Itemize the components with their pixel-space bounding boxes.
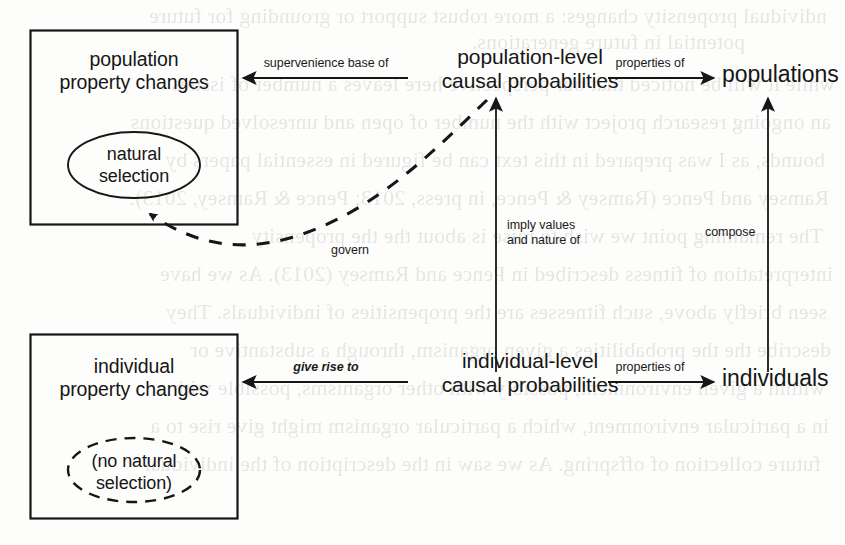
edge-label-govern: govern [331,243,369,258]
node-label-line-1: population-level [415,45,645,69]
box-label-line-2: property changes [34,378,234,401]
edge-label-properties-of-populations: properties of [616,56,685,71]
box-label-line-1: individual [34,355,234,378]
node-population-level-causal-probabilities: population-level causal probabilities [415,45,645,93]
edge-label-line-2: and nature of [507,233,580,248]
ellipse-label-natural-selection: natural selection [59,143,209,187]
node-individuals: individuals [722,366,828,390]
edge-label-give-rise-to: give rise to [293,360,358,375]
box-label-population-property-changes: population property changes [34,48,234,94]
node-populations: populations [722,62,839,86]
ellipse-label-line-2: selection [59,165,209,187]
node-label-line-2: causal probabilities [415,373,645,397]
node-label-line-2: causal probabilities [415,69,645,93]
ellipse-label-no-natural-selection: (no natural selection) [54,450,214,494]
edge-label-supervenience-base-of: supervenience base of [264,56,389,71]
edge-label-properties-of-individuals: properties of [616,360,685,375]
box-label-individual-property-changes: individual property changes [34,355,234,401]
node-label-line-1: individual-level [415,349,645,373]
box-label-line-1: population [34,48,234,71]
edge-label-line-1: imply values [507,218,580,233]
ellipse-label-line-1: natural [59,143,209,165]
edge-label-compose: compose [705,225,755,240]
diagram-canvas: ndividual propensity changes: a more rob… [0,0,845,545]
ellipse-label-line-2: selection) [54,472,214,494]
node-individual-level-causal-probabilities: individual-level causal probabilities [415,349,645,397]
box-label-line-2: property changes [34,71,234,94]
ellipse-label-line-1: (no natural [54,450,214,472]
edge-label-imply-values-and-nature-of: imply values and nature of [507,218,580,248]
